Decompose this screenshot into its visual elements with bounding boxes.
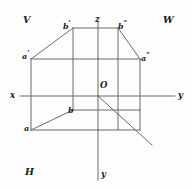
point-label-b-prime-mark: ': [69, 18, 71, 27]
axis-label-x: x: [10, 91, 15, 100]
axis-label-z: z: [95, 15, 100, 24]
axis-label-y-down: y: [101, 170, 106, 179]
point-label-b-prime: b': [63, 19, 70, 30]
plane-label-vertical: V: [23, 15, 31, 25]
geometry-figure: V W H x y z y O b' b" a' a" b a: [0, 0, 192, 190]
point-label-a-prime: a': [22, 49, 29, 60]
figure-linework: [0, 0, 192, 190]
point-label-a-prime-mark: ': [27, 48, 29, 57]
point-label-a-double-prime: a": [141, 51, 150, 62]
point-label-b-double-prime: b": [118, 19, 127, 30]
slant-lower-edge: [31, 110, 73, 130]
slant-right-edge: [118, 28, 140, 59]
slant-left-edge: [31, 28, 73, 59]
point-label-b-double-prime-mark: ": [124, 18, 127, 27]
origin-label: O: [100, 81, 107, 90]
point-label-a-double-prime-mark: ": [146, 50, 149, 59]
diagonal-ray: [98, 96, 152, 145]
plane-label-profile: W: [163, 15, 174, 25]
point-label-b: b: [68, 106, 74, 114]
axis-label-y-right: y: [178, 91, 183, 100]
point-label-a: a: [24, 124, 29, 132]
plane-label-horizontal: H: [25, 167, 34, 177]
